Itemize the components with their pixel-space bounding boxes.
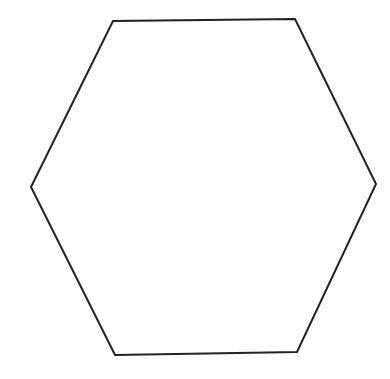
hexagon-shape [31,19,376,355]
diagram-canvas [0,0,390,379]
